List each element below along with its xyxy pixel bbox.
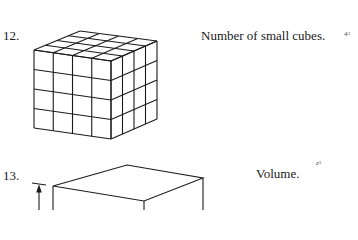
problem-13-caption: Volume.: [256, 167, 299, 180]
cube-top-line-width: [80, 31, 157, 41]
cube-top-line-width: [69, 36, 146, 46]
problem-12-caption: Number of small cubes.: [201, 29, 325, 42]
dimension-arrow-head-icon: [37, 186, 41, 192]
cube-top-line-width: [57, 41, 134, 52]
problem-13-number: 13.: [3, 169, 19, 182]
box-top-face: [53, 165, 203, 201]
problem-13-answer: z3: [316, 160, 321, 167]
problem-12-answer: 43: [344, 31, 350, 38]
